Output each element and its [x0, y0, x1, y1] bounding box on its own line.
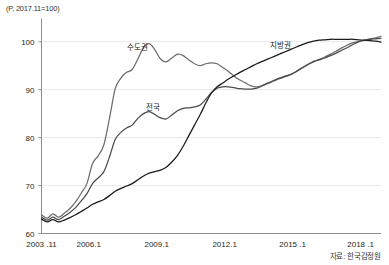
series-label-수도권: 수도권 [127, 40, 147, 51]
y-tick-label: 90 [9, 85, 35, 94]
y-tick-label: 80 [9, 133, 35, 142]
y-tick-label: 100 [9, 37, 35, 46]
series-label-지방권: 지방권 [270, 38, 290, 49]
x-tick-label: 2012.1 [212, 240, 236, 249]
series-line-전국 [42, 38, 382, 220]
x-tick-label: 2003 .11 [26, 240, 57, 249]
x-tick-label: 2015 .1 [279, 240, 306, 249]
line-chart-plot [0, 0, 389, 265]
series-line-수도권 [42, 36, 382, 218]
y-tick-label: 70 [9, 181, 35, 190]
x-tick-label: 2006.1 [76, 240, 100, 249]
source-note: 자료: 한국감정원 [330, 250, 381, 261]
chart-container: (P, 2017.11=100) 60708090100 2003 .11200… [0, 0, 389, 265]
y-tick-label: 60 [9, 229, 35, 238]
series-label-전국: 전국 [146, 100, 160, 111]
series-line-지방권 [42, 39, 382, 222]
x-tick-label: 2009.1 [144, 240, 168, 249]
x-tick-label: 2018 .1 [347, 240, 374, 249]
